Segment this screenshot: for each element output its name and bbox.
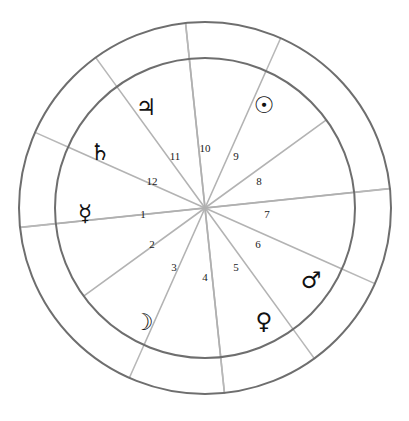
house-number-4: 4	[202, 271, 208, 283]
house-number-5: 5	[233, 261, 239, 273]
house-number-2: 2	[149, 238, 155, 250]
ic-mc-axis	[186, 23, 225, 393]
ring-spoke-se	[293, 329, 314, 358]
ring-spoke-w-upper	[35, 132, 68, 147]
sun-glyph-icon: ☉	[254, 92, 275, 118]
house-number-11: 11	[170, 150, 181, 162]
house-number-3: 3	[171, 261, 177, 273]
house-number-1: 1	[140, 208, 146, 220]
house-cusp-line-5	[205, 208, 293, 329]
ring-spoke-w-lower	[20, 224, 56, 228]
house-number-6: 6	[255, 238, 261, 250]
ring-spoke-ne-upper	[266, 38, 281, 71]
house-cusp-line-8	[205, 120, 326, 208]
ring-spoke-sw	[129, 345, 144, 378]
house-number-12: 12	[147, 175, 158, 187]
house-number-7: 7	[264, 208, 270, 220]
ring-spoke-n	[186, 23, 190, 59]
house-number-10: 10	[200, 142, 212, 154]
moon-glyph-icon: ☽	[133, 309, 154, 335]
house-number-8: 8	[256, 175, 262, 187]
jupiter-glyph-icon: ♃	[136, 94, 157, 120]
astrology-chart-wheel: 123456789101112 ♃☉♄☿☽♀♂	[0, 0, 409, 421]
house-spokes-group	[20, 23, 390, 393]
mars-glyph-icon: ♂	[301, 267, 322, 293]
ring-spoke-e-upper	[354, 189, 390, 193]
saturn-glyph-icon: ♄	[90, 139, 111, 165]
planet-glyphs-group: ♃☉♄☿☽♀♂	[78, 92, 321, 335]
ring-spoke-s	[221, 357, 225, 393]
house-cusp-line-2	[84, 208, 205, 296]
ring-spoke-nw	[96, 58, 117, 87]
house-cusp-line-6	[205, 208, 342, 269]
ring-spoke-e-lower	[342, 269, 375, 284]
chart-canvas: 123456789101112 ♃☉♄☿☽♀♂	[0, 0, 409, 421]
mercury-glyph-icon: ☿	[78, 200, 92, 226]
house-cusp-line-11	[117, 87, 205, 208]
venus-glyph-icon: ♀	[256, 308, 273, 334]
house-number-9: 9	[233, 150, 239, 162]
